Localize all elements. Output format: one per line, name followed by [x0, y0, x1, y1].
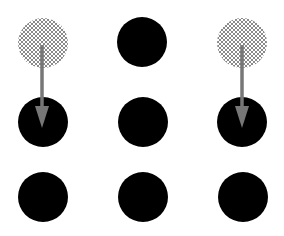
arrow-shaft	[240, 45, 244, 107]
solid-dot-r3c3	[218, 172, 268, 222]
arrow-shaft	[40, 45, 44, 107]
diagram-svg	[0, 0, 284, 236]
solid-dot-r3c2	[118, 172, 168, 222]
solid-dot-r3c1	[18, 172, 68, 222]
dot-grid-diagram	[0, 0, 284, 236]
solid-dot-r1c2	[117, 17, 167, 67]
dots-layer	[18, 17, 268, 222]
solid-dot-r2c2	[118, 97, 168, 147]
